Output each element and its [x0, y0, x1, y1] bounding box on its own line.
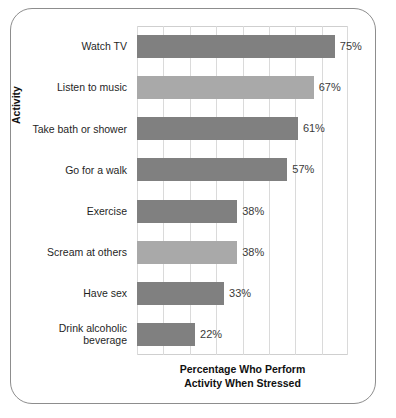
category-label: Scream at others [0, 246, 131, 259]
bar-series: 75%67%61%57%38%38%33%22% [137, 26, 348, 355]
bar-row: 57% [137, 149, 348, 190]
category-label: Go for a walk [0, 164, 131, 177]
chart-figure: 75%67%61%57%38%38%33%22% Watch TVListen … [0, 0, 396, 418]
bar [137, 323, 195, 346]
bar-value-label: 57% [287, 158, 314, 181]
bar-value-label: 33% [224, 282, 251, 305]
bar [137, 282, 224, 305]
category-label: Drink alcoholic beverage [0, 322, 131, 347]
bar [137, 158, 287, 181]
bar-value-label: 38% [237, 200, 264, 223]
bar [137, 200, 237, 223]
bar-row: 38% [137, 232, 348, 273]
bar-row: 22% [137, 314, 348, 355]
bar [137, 117, 298, 140]
bar-value-label: 38% [237, 241, 264, 264]
category-label: Have sex [0, 287, 131, 300]
bar [137, 35, 335, 58]
bar-row: 38% [137, 191, 348, 232]
bar-value-label: 67% [314, 76, 341, 99]
bar-row: 33% [137, 273, 348, 314]
bar [137, 76, 314, 99]
bar-value-label: 61% [298, 117, 325, 140]
bar-row: 75% [137, 26, 348, 67]
category-label: Exercise [0, 205, 131, 218]
category-label: Watch TV [0, 40, 131, 53]
x-axis-title: Percentage Who Perform Activity When Str… [137, 362, 348, 390]
bar-value-label: 22% [195, 323, 222, 346]
bar-row: 61% [137, 108, 348, 149]
y-axis-title: Activity [10, 60, 22, 150]
bar-value-label: 75% [335, 35, 362, 58]
bar [137, 241, 237, 264]
bar-row: 67% [137, 67, 348, 108]
